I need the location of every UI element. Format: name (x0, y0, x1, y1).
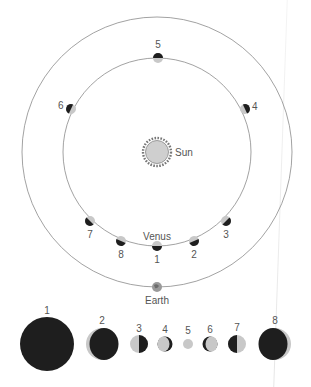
venus-position-3 (219, 214, 233, 228)
position-label-5: 5 (155, 39, 161, 50)
phase-label-2: 2 (99, 315, 105, 326)
phase-label-4: 4 (162, 324, 168, 335)
position-label-2: 2 (191, 249, 197, 260)
phase-label-6: 6 (207, 324, 213, 335)
phase-label-3: 3 (136, 323, 142, 334)
phase-3-icon (130, 335, 148, 353)
venus-position-7 (83, 214, 97, 228)
venus-label: Venus (143, 231, 171, 242)
phase-2-icon (86, 328, 119, 360)
phase-8-icon (259, 328, 292, 360)
phase-6-icon (203, 337, 218, 352)
phase-7-icon (228, 335, 246, 353)
phase-label-7: 7 (234, 322, 240, 333)
position-label-8: 8 (118, 249, 124, 260)
position-label-1: 1 (154, 254, 160, 265)
venus-phases-diagram: Sun Earth Venus 1 2 3 4 5 6 7 8 (0, 0, 311, 387)
earth-label: Earth (145, 295, 169, 306)
position-label-4: 4 (252, 101, 258, 112)
position-label-7: 7 (87, 229, 93, 240)
venus-position-1 (152, 241, 162, 251)
earth-icon (152, 282, 162, 292)
venus-position-4 (238, 102, 251, 115)
sun-label: Sun (175, 147, 193, 158)
phase-1-icon (20, 317, 74, 371)
phase-label-5: 5 (185, 325, 191, 336)
phase-5-icon (183, 339, 193, 349)
phase-label-8: 8 (272, 315, 278, 326)
position-label-6: 6 (58, 100, 64, 111)
position-label-3: 3 (223, 229, 229, 240)
venus-position-5 (153, 53, 163, 63)
phase-4-icon (158, 337, 173, 352)
phase-label-1: 1 (44, 305, 50, 316)
sun-icon (143, 138, 171, 166)
